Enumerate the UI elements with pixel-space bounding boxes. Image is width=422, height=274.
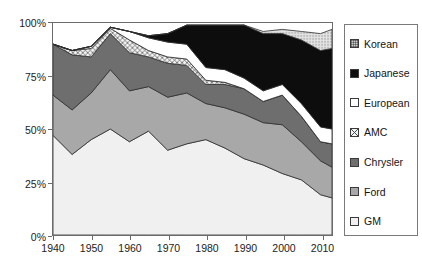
y-tick-label-75: 75%	[4, 72, 46, 83]
gm-swatch-icon	[350, 217, 359, 226]
y-tick-mark-0	[48, 236, 52, 237]
x-tick-mark-1940	[53, 236, 54, 240]
x-tick-mark-1970	[169, 236, 170, 240]
x-tick-label-2000: 2000	[264, 243, 304, 254]
legend-label-ford: Ford	[364, 187, 386, 198]
y-tick-label-25: 25%	[4, 179, 46, 190]
legend-item-chrysler[interactable]: Chrysler	[345, 147, 417, 177]
x-tick-mark-1960	[130, 236, 131, 240]
legend-item-amc[interactable]: AMC	[345, 118, 417, 148]
legend-label-chrysler: Chrysler	[364, 157, 403, 168]
legend-item-european[interactable]: European	[345, 88, 417, 118]
x-tick-mark-1980	[207, 236, 208, 240]
x-tick-mark-2010	[323, 236, 324, 240]
x-tick-label-1940: 1940	[33, 243, 73, 254]
legend-label-gm: GM	[364, 216, 381, 227]
amc-swatch-icon	[350, 128, 359, 137]
chart-figure: 100% 75% 50% 25% 0%	[0, 0, 422, 274]
korean-swatch-icon	[350, 39, 359, 48]
x-tick-label-1980: 1980	[187, 243, 227, 254]
y-tick-label-50: 50%	[4, 125, 46, 136]
legend-item-gm[interactable]: GM	[345, 207, 417, 237]
legend-item-korean[interactable]: Korean	[345, 29, 417, 59]
x-tick-mark-1990	[246, 236, 247, 240]
legend-item-ford[interactable]: Ford	[345, 177, 417, 207]
plot-area	[52, 22, 333, 236]
y-tick-label-100: 100%	[4, 18, 46, 29]
x-tick-label-1990: 1990	[226, 243, 266, 254]
x-tick-mark-2000	[284, 236, 285, 240]
x-tick-label-2010: 2010	[303, 243, 343, 254]
legend-label-korean: Korean	[364, 39, 398, 50]
legend-label-amc: AMC	[364, 127, 387, 138]
legend-item-japanese[interactable]: Japanese	[345, 59, 417, 89]
y-tick-label-0: 0%	[4, 232, 46, 243]
x-tick-label-1970: 1970	[149, 243, 189, 254]
japanese-swatch-icon	[350, 69, 359, 78]
x-tick-mark-1950	[92, 236, 93, 240]
legend-label-european: European	[364, 98, 410, 109]
european-swatch-icon	[350, 98, 359, 107]
legend-label-japanese: Japanese	[364, 68, 410, 79]
x-tick-label-1950: 1950	[72, 243, 112, 254]
chart-legend: Korean Japanese European AMC Chrysler Fo…	[344, 24, 418, 236]
x-tick-label-1960: 1960	[110, 243, 150, 254]
stacked-area-plot	[53, 23, 332, 235]
ford-swatch-icon	[350, 187, 359, 196]
chrysler-swatch-icon	[350, 158, 359, 167]
